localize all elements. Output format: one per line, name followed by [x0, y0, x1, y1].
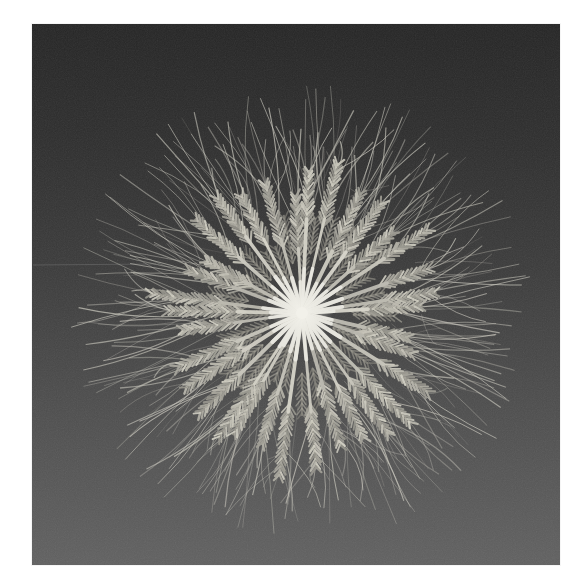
center-core	[296, 307, 308, 319]
wheat-photograph	[32, 24, 560, 565]
wheat-starburst-svg	[32, 24, 560, 565]
